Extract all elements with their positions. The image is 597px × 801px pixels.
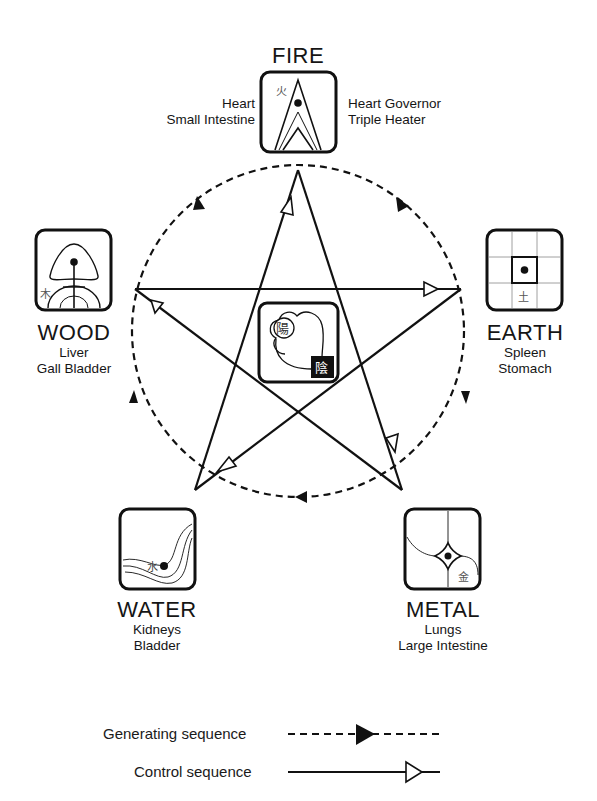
metal-icon: 金 [405,509,480,589]
fire-label: FIRE [258,43,338,68]
organ-triple-heater: Triple Heater [348,112,478,128]
fire-organs-left: Heart Small Intestine [130,96,255,127]
metal-label-group: METAL Lungs Large Intestine [373,597,513,653]
earth-icon: 土 [487,230,562,310]
organ-bladder: Bladder [97,638,217,654]
svg-text:火: 火 [276,85,287,98]
organ-lungs: Lungs [373,622,513,638]
generating-arrow-fire-to-earth [396,197,409,212]
organ-spleen: Spleen [465,345,585,361]
water-icon: 水 [120,509,195,589]
organ-liver: Liver [14,345,134,361]
svg-text:水: 水 [147,561,158,574]
fire-icon: 火 [261,72,336,152]
control-arrow-water-to-fire [281,197,293,215]
legend-generating-line [288,724,440,745]
generating-arrow-water-to-wood [129,390,138,403]
organ-gall-bladder: Gall Bladder [14,361,134,377]
earth-label: EARTH [465,320,585,345]
earth-label-group: EARTH Spleen Stomach [465,320,585,376]
organ-stomach: Stomach [465,361,585,377]
svg-text:陰: 陰 [315,360,328,375]
metal-label: METAL [373,597,513,622]
wood-label-group: WOOD Liver Gall Bladder [14,320,134,376]
organ-heart: Heart [130,96,255,112]
organ-small-intestine: Small Intestine [130,112,255,128]
five-elements-diagram: 火 木 土 水 金 [0,0,597,801]
legend-generating-label: Generating sequence [103,725,246,742]
svg-text:土: 土 [518,291,529,304]
legend-control-label: Control sequence [134,763,252,780]
legend-control-line [288,762,440,782]
generating-arrow-earth-to-metal [461,391,470,404]
organ-large-intestine: Large Intestine [373,638,513,654]
organ-heart-governor: Heart Governor [348,96,478,112]
wood-label: WOOD [14,320,134,345]
fire-organs-right: Heart Governor Triple Heater [348,96,478,127]
water-label-group: WATER Kidneys Bladder [97,597,217,653]
generating-arrow-metal-to-water [295,491,307,503]
svg-text:木: 木 [40,288,51,301]
control-arrow-earth-to-water [217,457,236,472]
water-label: WATER [97,597,217,622]
control-arrow-wood-to-earth [424,282,438,296]
svg-text:金: 金 [458,570,469,584]
svg-text:陽: 陽 [276,321,289,336]
wood-icon: 木 [36,230,111,310]
organ-kidneys: Kidneys [97,622,217,638]
center-yin-yang-icon: 陽 陰 [259,303,338,382]
control-arrow-metal-to-wood [151,300,163,313]
